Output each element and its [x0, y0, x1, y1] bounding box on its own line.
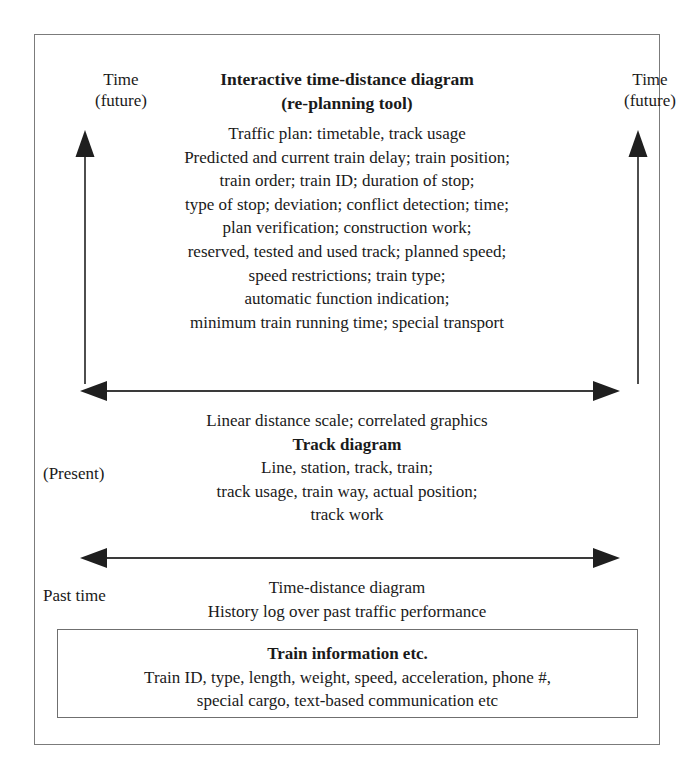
top-section-item: Predicted and current train delay; train… [35, 146, 659, 170]
top-section-item: Traffic plan: timetable, track usage [35, 122, 659, 146]
middle-section-item: track usage, train way, actual position; [35, 480, 659, 504]
train-information-item: Train ID, type, length, weight, speed, a… [58, 666, 637, 690]
distance-arrow-lower [80, 546, 620, 570]
lower-section-item: Time-distance diagram [35, 576, 659, 600]
top-section-item: reserved, tested and used track; planned… [35, 240, 659, 264]
diagram-outer-frame: Time (future) Time (future) Interactive … [34, 34, 660, 745]
top-section-item: train order; train ID; duration of stop; [35, 169, 659, 193]
middle-section-item: track work [35, 503, 659, 527]
top-section-item: minimum train running time; special tran… [35, 311, 659, 335]
middle-section: Linear distance scale; correlated graphi… [35, 409, 659, 527]
top-section-item: automatic function indication; [35, 287, 659, 311]
train-information-item: special cargo, text-based communication … [58, 689, 637, 713]
middle-section-item: Line, station, track, train; [35, 456, 659, 480]
top-section-items: Traffic plan: timetable, track usage Pre… [35, 122, 659, 334]
train-information-box: Train information etc. Train ID, type, l… [57, 629, 638, 718]
lower-section-item: History log over past traffic performanc… [35, 600, 659, 624]
top-section-item: speed restrictions; train type; [35, 264, 659, 288]
distance-arrow-upper [80, 379, 620, 403]
top-section-heading: Interactive time-distance diagram (re-pl… [35, 68, 659, 115]
top-section-item: plan verification; construction work; [35, 216, 659, 240]
lower-section: Time-distance diagram History log over p… [35, 576, 659, 623]
top-section-item: type of stop; deviation; conflict detect… [35, 193, 659, 217]
middle-section-title: Track diagram [35, 433, 659, 457]
top-section-title-line2: (re-planning tool) [35, 92, 659, 116]
middle-section-caption: Linear distance scale; correlated graphi… [35, 409, 659, 433]
train-information-title: Train information etc. [58, 642, 637, 666]
top-section-title-line1: Interactive time-distance diagram [35, 68, 659, 92]
